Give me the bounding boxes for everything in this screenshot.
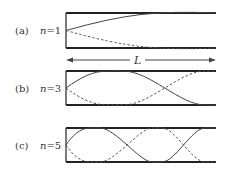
- wave-dashed-curve: [66, 71, 216, 105]
- arrowhead-left-icon: [66, 58, 73, 63]
- panel-label-a: (a): [15, 25, 29, 36]
- panel-b: (b) n=3: [15, 71, 216, 105]
- panel-label-c: (c): [15, 140, 29, 151]
- harmonic-label-a: n=1: [40, 25, 61, 36]
- standing-wave-diagram: (a) n=1 L (b) n=3 (c) n=5: [0, 0, 229, 176]
- harmonic-label-c: n=5: [40, 140, 61, 151]
- arrowhead-right-icon: [209, 58, 216, 63]
- length-label: L: [133, 54, 141, 67]
- panel-a: (a) n=1: [15, 12, 216, 48]
- wave-dashed-curve: [66, 31, 216, 49]
- length-indicator: L: [66, 54, 216, 67]
- wave-solid-curve: [66, 71, 216, 105]
- panel-label-b: (b): [15, 83, 29, 94]
- wave-solid-curve: [66, 12, 216, 30]
- harmonic-label-b: n=3: [40, 83, 61, 94]
- panel-c: (c) n=5: [15, 128, 216, 162]
